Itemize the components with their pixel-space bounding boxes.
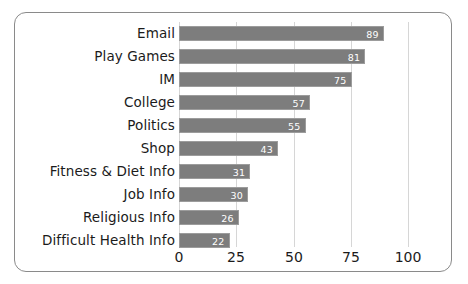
- bar-value-label: 55: [288, 119, 301, 134]
- bar[interactable]: 31: [179, 164, 250, 179]
- category-label: Job Info: [124, 183, 175, 206]
- category-label: IM: [159, 68, 175, 91]
- category-label: Email: [137, 22, 175, 45]
- bar-row: 55: [179, 114, 409, 137]
- bar[interactable]: 55: [179, 118, 306, 133]
- category-label: Play Games: [94, 45, 175, 68]
- axis-tick-label: 50: [285, 249, 303, 265]
- bar-row: 81: [179, 45, 409, 68]
- bar[interactable]: 43: [179, 141, 278, 156]
- plot-area: 89 81 75 57 55 43: [179, 22, 409, 247]
- bar-value-label: 26: [221, 211, 234, 226]
- bar[interactable]: 75: [179, 72, 352, 87]
- bar-row: 75: [179, 68, 409, 91]
- bar-value-label: 89: [366, 27, 379, 42]
- bar[interactable]: 26: [179, 210, 239, 225]
- bar-value-label: 22: [212, 234, 225, 249]
- value-axis: 0 25 50 75 100: [179, 249, 409, 271]
- bar-value-label: 31: [233, 165, 246, 180]
- bar[interactable]: 89: [179, 26, 384, 41]
- bar[interactable]: 30: [179, 187, 248, 202]
- category-axis: Email Play Games IM College Politics Sho…: [25, 22, 175, 247]
- axis-tick-label: 75: [342, 249, 360, 265]
- bar-value-label: 75: [334, 73, 347, 88]
- bar-row: 57: [179, 91, 409, 114]
- bar-row: 30: [179, 183, 409, 206]
- bar[interactable]: 22: [179, 233, 230, 248]
- category-label: College: [124, 91, 175, 114]
- axis-tick-label: 100: [395, 249, 422, 265]
- bar-value-label: 30: [231, 188, 244, 203]
- bar-row: 89: [179, 22, 409, 45]
- chart-frame: Email Play Games IM College Politics Sho…: [14, 12, 452, 272]
- bar[interactable]: 81: [179, 49, 365, 64]
- axis-tick-label: 25: [227, 249, 245, 265]
- category-label: Difficult Health Info: [42, 229, 175, 252]
- bar-value-label: 43: [260, 142, 273, 157]
- bar-row: 26: [179, 206, 409, 229]
- category-label: Politics: [127, 114, 175, 137]
- bar[interactable]: 57: [179, 95, 310, 110]
- bar-row: 31: [179, 160, 409, 183]
- bar-value-label: 57: [293, 96, 306, 111]
- bar-value-label: 81: [348, 50, 361, 65]
- bar-row: 43: [179, 137, 409, 160]
- category-label: Religious Info: [83, 206, 175, 229]
- category-label: Shop: [141, 137, 175, 160]
- axis-tick-label: 0: [175, 249, 184, 265]
- category-label: Fitness & Diet Info: [50, 160, 175, 183]
